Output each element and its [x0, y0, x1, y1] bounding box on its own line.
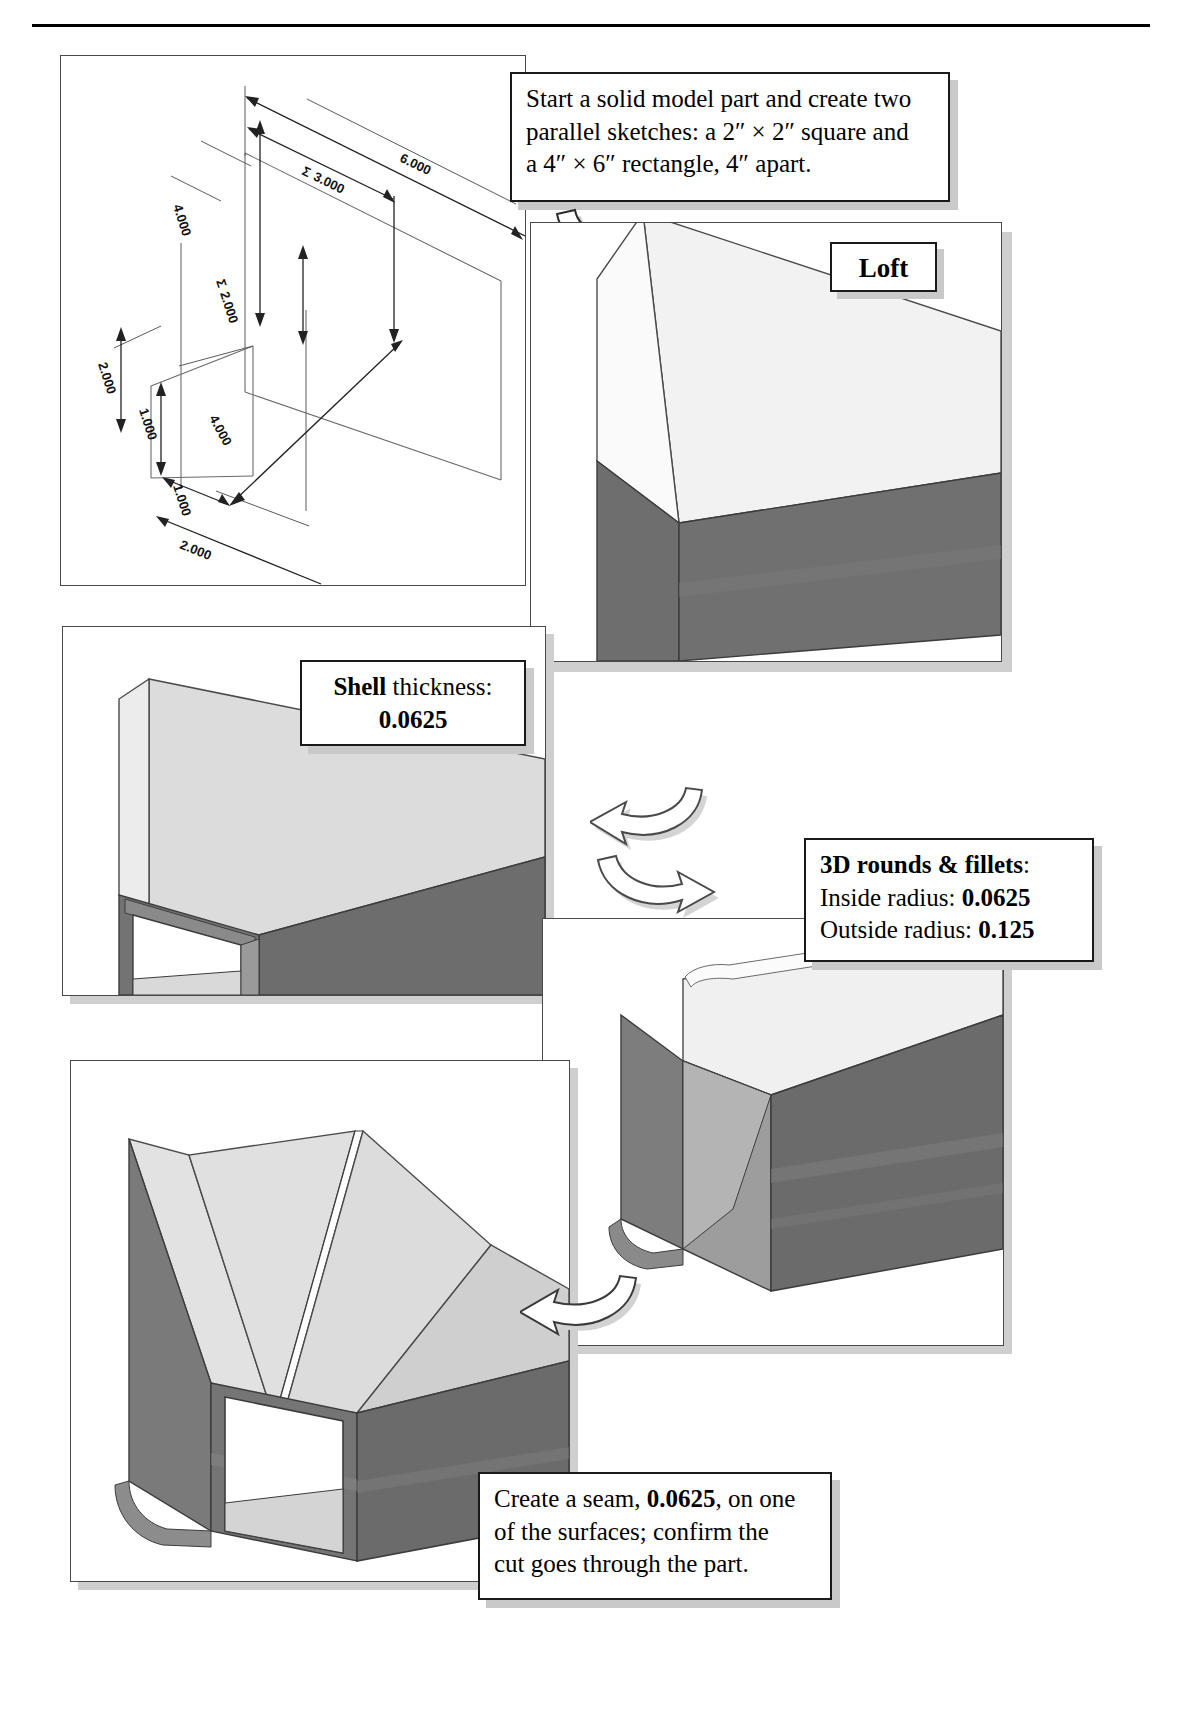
- fillets-title: 3D rounds & fillets: [820, 851, 1023, 878]
- seam-text-b: , on one: [715, 1485, 795, 1512]
- shell-keyword: Shell: [333, 673, 386, 700]
- loft-label: Loft: [859, 253, 909, 283]
- callout-sketch-line-2: parallel sketches: a 2″ × 2″ square and: [526, 116, 934, 149]
- dim-label-base-depth: 4.000: [206, 412, 235, 448]
- callout-seam: Create a seam, 0.0625, on one of the sur…: [478, 1472, 832, 1600]
- callout-shell: Shell thickness: 0.0625: [300, 660, 526, 746]
- outside-radius-label: Outside radius:: [820, 916, 978, 943]
- dim-label-top-width: 6.000: [398, 150, 434, 178]
- shell-line-1: Shell thickness:: [316, 671, 510, 704]
- callout-sketch-line-3: a 4″ × 6″ rectangle, 4″ apart.: [526, 148, 934, 181]
- seam-text-a: Create a seam,: [494, 1485, 647, 1512]
- inside-radius-label: Inside radius:: [820, 884, 962, 911]
- shell-thickness-label: thickness:: [386, 673, 492, 700]
- callout-loft: Loft: [830, 242, 937, 292]
- header-rule: [32, 24, 1150, 27]
- inside-radius-value: 0.0625: [962, 884, 1031, 911]
- seam-value: 0.0625: [647, 1485, 716, 1512]
- callout-start-sketch: Start a solid model part and create two …: [510, 72, 950, 202]
- callout-fillets: 3D rounds & fillets: Inside radius: 0.06…: [804, 838, 1094, 962]
- panel-dimensioned-sketch: Σ3.000 6.000 4.000 Σ2.000 4.000 2.000 1.…: [60, 55, 526, 586]
- dimension-drawing: Σ3.000 6.000 4.000 Σ2.000 4.000 2.000 1.…: [61, 56, 525, 585]
- dim-label-bottom-width: 2.000: [178, 537, 214, 563]
- seam-line-2: of the surfaces; confirm the: [494, 1516, 816, 1549]
- shell-thickness-value: 0.0625: [316, 704, 510, 737]
- seam-line-3: cut goes through the part.: [494, 1548, 816, 1581]
- dim-label-left-inner: 1.000: [136, 406, 160, 442]
- dim-label-mid-height: Σ2.000: [213, 277, 241, 325]
- arrow-fillets-to-seam: [520, 1266, 650, 1356]
- dim-label-height: 4.000: [170, 202, 194, 238]
- dim-label-left-height: 2.000: [95, 360, 119, 396]
- outside-radius-value: 0.125: [978, 916, 1034, 943]
- tutorial-sheet: Σ3.000 6.000 4.000 Σ2.000 4.000 2.000 1.…: [0, 0, 1182, 1722]
- fillets-title-line: 3D rounds & fillets:: [820, 849, 1078, 882]
- fillets-inside-line: Inside radius: 0.0625: [820, 882, 1078, 915]
- seam-line-1: Create a seam, 0.0625, on one: [494, 1483, 816, 1516]
- dim-label-bottom-inner: 1.000: [170, 482, 194, 518]
- callout-sketch-line-1: Start a solid model part and create two: [526, 83, 934, 116]
- fillets-outside-line: Outside radius: 0.125: [820, 914, 1078, 947]
- fillets-title-suffix: :: [1023, 851, 1030, 878]
